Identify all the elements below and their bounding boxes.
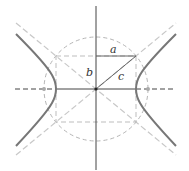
center-point: [94, 87, 97, 90]
label-a: a: [110, 43, 117, 56]
label-c: c: [118, 70, 124, 83]
label-b: b: [86, 66, 93, 79]
focus-left: [42, 87, 46, 91]
focus-right: [146, 87, 150, 91]
hyperbola-left-branch: [16, 34, 56, 146]
abc-triangle: [96, 56, 136, 89]
segment-c: [96, 56, 136, 89]
hyperbola-diagram: a b c: [0, 0, 189, 171]
